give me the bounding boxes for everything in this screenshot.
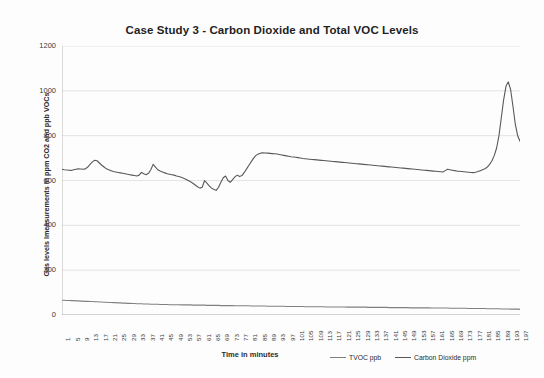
legend-line-icon bbox=[330, 357, 346, 358]
y-axis-tick: 600 bbox=[22, 176, 56, 185]
x-axis-tick: 133 bbox=[373, 331, 380, 341]
x-axis-tick: 97 bbox=[289, 334, 296, 341]
x-axis-tick: 61 bbox=[205, 334, 212, 341]
x-axis-tick: 157 bbox=[429, 331, 436, 341]
x-axis-tick: 161 bbox=[438, 331, 445, 341]
x-axis-tick: 101 bbox=[298, 331, 305, 341]
x-axis-tick: 29 bbox=[130, 334, 137, 341]
x-axis-tick: 197 bbox=[522, 331, 529, 341]
plot-svg bbox=[62, 46, 520, 315]
y-axis-tick: 200 bbox=[22, 265, 56, 274]
x-axis-tick: 113 bbox=[326, 331, 333, 341]
x-axis-tick: 153 bbox=[420, 331, 427, 341]
x-axis-tick: 169 bbox=[457, 331, 464, 341]
x-axis-tick: 81 bbox=[251, 334, 258, 341]
x-axis-tick: 125 bbox=[354, 331, 361, 341]
y-axis-tick: 0 bbox=[22, 310, 56, 319]
legend-label: Carbon Dioxide ppm bbox=[414, 354, 476, 361]
x-axis-tick: 21 bbox=[111, 334, 118, 341]
y-axis-tick: 1000 bbox=[22, 86, 56, 95]
x-axis-tick: 105 bbox=[307, 331, 314, 341]
x-axis-tick: 149 bbox=[410, 331, 417, 341]
series-line bbox=[62, 300, 520, 309]
x-axis-tick: 173 bbox=[466, 331, 473, 341]
x-axis-title: Time in minutes bbox=[180, 350, 320, 359]
x-axis-tick: 49 bbox=[177, 334, 184, 341]
legend-label: TVOC ppb bbox=[349, 354, 381, 361]
x-axis-tick: 181 bbox=[485, 331, 492, 341]
x-axis-tick: 77 bbox=[242, 334, 249, 341]
x-axis-tick: 9 bbox=[83, 338, 90, 341]
chart-title: Case Study 3 - Carbon Dioxide and Total … bbox=[0, 24, 544, 36]
legend-line-icon bbox=[395, 357, 411, 358]
x-axis-tick: 141 bbox=[392, 331, 399, 341]
x-axis-tick: 137 bbox=[382, 331, 389, 341]
x-axis-tick: 117 bbox=[335, 331, 342, 341]
x-axis-tick: 13 bbox=[92, 334, 99, 341]
x-axis-tick: 165 bbox=[448, 331, 455, 341]
legend-item[interactable]: Carbon Dioxide ppm bbox=[395, 354, 476, 361]
x-axis-tick: 145 bbox=[401, 331, 408, 341]
x-axis-tick: 73 bbox=[233, 334, 240, 341]
plot-area bbox=[62, 46, 520, 315]
chart-container: Case Study 3 - Carbon Dioxide and Total … bbox=[0, 0, 544, 378]
x-axis-tick: 177 bbox=[476, 331, 483, 341]
x-axis-tick: 1 bbox=[64, 338, 71, 341]
x-axis-tick: 53 bbox=[186, 334, 193, 341]
x-axis-tick: 185 bbox=[494, 331, 501, 341]
series-line bbox=[62, 82, 520, 190]
x-axis-tick: 89 bbox=[270, 334, 277, 341]
x-axis-tick: 85 bbox=[261, 334, 268, 341]
y-axis-tick: 800 bbox=[22, 131, 56, 140]
x-axis-tick: 189 bbox=[504, 331, 511, 341]
x-axis-tick: 33 bbox=[139, 334, 146, 341]
x-axis-tick: 69 bbox=[223, 334, 230, 341]
x-axis-tick: 65 bbox=[214, 334, 221, 341]
x-axis-tick: 25 bbox=[120, 334, 127, 341]
chart-legend: TVOC ppbCarbon Dioxide ppm bbox=[330, 351, 476, 363]
x-axis-tick: 193 bbox=[513, 331, 520, 341]
x-axis-tick-labels: 1591317212529333741454953576165697377818… bbox=[62, 317, 520, 349]
x-axis-tick: 129 bbox=[364, 331, 371, 341]
gridlines bbox=[62, 46, 520, 315]
x-axis-tick: 109 bbox=[317, 331, 324, 341]
x-axis-tick: 57 bbox=[195, 334, 202, 341]
x-axis-tick: 121 bbox=[345, 331, 352, 341]
x-axis-tick: 41 bbox=[158, 334, 165, 341]
y-axis-tick: 400 bbox=[22, 220, 56, 229]
x-axis-tick: 37 bbox=[149, 334, 156, 341]
x-axis-tick: 93 bbox=[279, 334, 286, 341]
x-axis-tick: 17 bbox=[102, 334, 109, 341]
y-axis-tick: 1200 bbox=[22, 41, 56, 50]
legend-item[interactable]: TVOC ppb bbox=[330, 354, 381, 361]
x-axis-tick: 45 bbox=[167, 334, 174, 341]
data-series-group bbox=[62, 82, 520, 310]
x-axis-tick: 5 bbox=[74, 338, 81, 341]
